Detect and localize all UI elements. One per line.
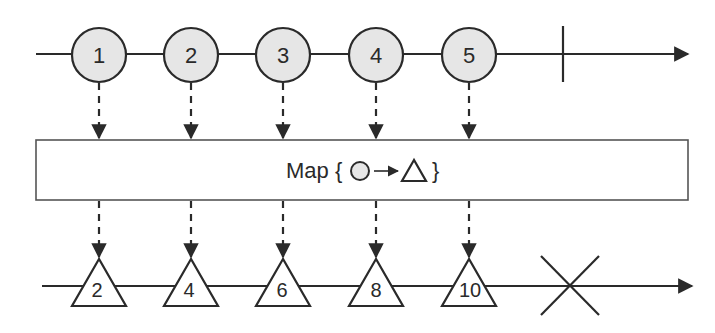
marble-label: 8 xyxy=(370,279,381,301)
input-connectors xyxy=(99,83,469,138)
input-marble-3: 3 xyxy=(256,28,310,82)
input-stream: 1 2 3 4 5 xyxy=(36,26,688,82)
operator-label: Map { xyxy=(286,158,342,183)
input-marble-5: 5 xyxy=(442,28,496,82)
output-stream: 2 4 6 8 10 xyxy=(42,256,692,315)
output-marble-5: 10 xyxy=(442,259,496,306)
marble-label: 5 xyxy=(463,43,475,68)
marble-label: 2 xyxy=(185,43,197,68)
circle-icon xyxy=(351,162,369,180)
input-marble-4: 4 xyxy=(349,28,403,82)
operator-close: } xyxy=(432,158,439,183)
output-marble-1: 2 xyxy=(72,259,126,306)
marble-label: 1 xyxy=(93,43,105,68)
marble-label: 2 xyxy=(91,279,102,301)
marble-label: 6 xyxy=(276,279,287,301)
marble-label: 4 xyxy=(183,279,194,301)
map-operator-box: Map { } xyxy=(36,140,688,200)
input-marble-1: 1 xyxy=(72,28,126,82)
output-marble-4: 8 xyxy=(349,259,403,306)
marble-label: 4 xyxy=(370,43,382,68)
marble-label: 3 xyxy=(277,43,289,68)
marble-label: 10 xyxy=(459,279,481,301)
marble-diagram: 1 2 3 4 5 Map { } xyxy=(0,0,715,333)
input-marble-2: 2 xyxy=(164,28,218,82)
output-marble-3: 6 xyxy=(256,259,310,306)
output-connectors xyxy=(99,201,469,257)
output-marble-2: 4 xyxy=(164,259,218,306)
